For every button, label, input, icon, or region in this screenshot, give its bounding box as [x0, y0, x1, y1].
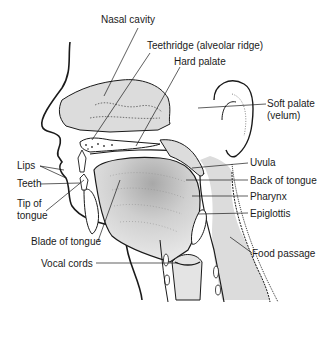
label-back-of-tongue: Back of tongue [250, 175, 317, 186]
label-teeth: Teeth [17, 178, 41, 189]
label-tip-of-tongue-2: tongue [17, 210, 48, 221]
larynx [172, 255, 202, 301]
label-uvula: Uvula [250, 157, 276, 168]
label-vocal-cords: Vocal cords [41, 258, 93, 269]
label-teethridge: Teethridge (alveolar ridge) [147, 40, 263, 51]
upper-teeth [78, 150, 86, 172]
label-epiglottis: Epiglottis [250, 208, 291, 219]
tongue [94, 158, 200, 263]
label-tip-of-tongue-1: Tip of [17, 198, 42, 209]
ear [214, 81, 253, 157]
label-nasal-cavity: Nasal cavity [101, 14, 155, 25]
label-pharynx: Pharynx [250, 191, 287, 202]
label-food-passage: Food passage [252, 248, 315, 259]
lower-jaw [84, 189, 99, 234]
label-velum: (velum) [267, 110, 300, 121]
label-lips: Lips [17, 160, 35, 171]
label-blade-of-tongue: Blade of tongue [31, 236, 101, 247]
vocal-tract-diagram [0, 0, 326, 340]
label-soft-palate: Soft palate [267, 98, 315, 109]
label-hard-palate: Hard palate [174, 56, 226, 67]
